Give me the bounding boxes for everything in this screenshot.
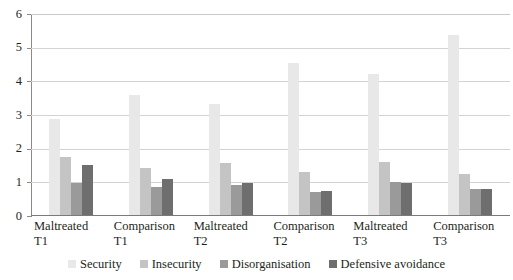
bar-group [350,14,430,216]
x-axis-category-line2: T2 [194,234,274,249]
bar [379,162,390,216]
legend-item[interactable]: Insecurity [140,258,202,271]
bar [459,174,470,216]
bar [390,182,401,216]
plot-area [31,14,510,216]
bar [310,192,321,216]
bar [129,95,140,216]
bar-group [111,14,191,216]
legend-item[interactable]: Defensive avoidance [329,258,445,271]
x-axis-category-line2: T2 [274,234,354,249]
legend-label: Insecurity [152,258,202,271]
bar-group [271,14,351,216]
legend-label: Defensive avoidance [341,258,445,271]
x-axis-line [31,215,510,216]
bars-layer [31,14,510,216]
x-axis-category-label: MaltreatedT2 [194,219,274,249]
y-axis: 0123456 [0,0,29,232]
legend-item[interactable]: Disorganisation [220,258,311,271]
x-axis-category-label: ComparisonT3 [433,219,513,249]
x-axis-category-line1: Maltreated [194,219,248,233]
x-axis-category-line1: Maltreated [34,219,88,233]
bar [60,157,71,216]
bar [162,179,173,216]
legend-label: Disorganisation [232,258,311,271]
chart-legend: SecurityInsecurityDisorganisationDefensi… [0,258,513,271]
bar [82,165,93,217]
bar [242,183,253,216]
x-axis-category-label: MaltreatedT1 [34,219,114,249]
bar [209,104,220,216]
x-axis-category-line1: Comparison [433,219,494,233]
y-tick-label: 3 [16,109,22,122]
bar [288,63,299,216]
y-tick-label: 4 [16,75,22,88]
x-axis-category-line2: T1 [34,234,114,249]
legend-swatch-icon [220,260,228,268]
legend-swatch-icon [140,260,148,268]
x-axis-category-line1: Comparison [114,219,175,233]
bar [470,189,481,216]
bar [220,163,231,216]
bar [299,172,310,216]
legend-swatch-icon [329,260,337,268]
x-axis-labels: MaltreatedT1ComparisonT1MaltreatedT2Comp… [31,219,510,255]
legend-item[interactable]: Security [68,258,122,271]
bar [481,189,492,216]
x-axis-category-line2: T3 [353,234,433,249]
x-axis-category-label: ComparisonT1 [114,219,194,249]
y-tick-label: 0 [16,210,22,223]
x-axis-category-line2: T3 [433,234,513,249]
bar [401,183,412,216]
bar-group [31,14,111,216]
x-axis-category-label: ComparisonT2 [274,219,354,249]
bar-chart: 0123456 MaltreatedT1ComparisonT1Maltreat… [0,0,513,280]
y-tick-label: 6 [16,8,22,21]
bar-group [191,14,271,216]
bar [448,35,459,216]
y-tick-label: 5 [16,41,22,54]
bar [231,185,242,216]
legend-label: Security [80,258,122,271]
bar [140,168,151,216]
legend-swatch-icon [68,260,76,268]
y-tick-label: 2 [16,142,22,155]
bar-group [430,14,510,216]
bar [321,191,332,216]
x-axis-category-label: MaltreatedT3 [353,219,433,249]
bar [368,74,379,216]
x-axis-category-line1: Maltreated [353,219,407,233]
x-axis-category-line2: T1 [114,234,194,249]
bar [71,183,82,216]
bar [49,119,60,216]
bar [151,187,162,216]
x-axis-category-line1: Comparison [274,219,335,233]
y-tick-label: 1 [16,176,22,189]
